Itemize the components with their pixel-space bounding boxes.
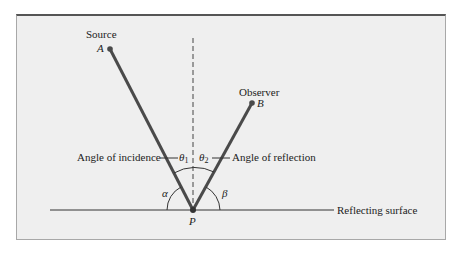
reflection-diagram: Source A Observer B P Angle of incidence… <box>0 0 460 253</box>
incident-ray <box>110 49 193 210</box>
point-p-label: P <box>188 215 196 227</box>
reflecting-surface-label: Reflecting surface <box>337 204 417 216</box>
angle-reflection-label: Angle of reflection <box>232 151 316 163</box>
beta-label: β <box>221 187 228 199</box>
theta2-label: θ2 <box>199 151 208 165</box>
alpha-arc <box>167 187 181 210</box>
beta-arc <box>206 187 220 210</box>
theta-arc <box>174 167 214 173</box>
point-p-dot <box>190 207 196 213</box>
point-a-label: A <box>96 42 104 54</box>
angle-incidence-label: Angle of incidence <box>77 151 161 163</box>
point-b-dot <box>249 100 255 106</box>
point-a-dot <box>107 46 113 52</box>
alpha-label: α <box>162 187 168 199</box>
source-label: Source <box>86 28 117 40</box>
point-b-label: B <box>257 97 264 109</box>
theta1-label: θ1 <box>179 151 188 165</box>
